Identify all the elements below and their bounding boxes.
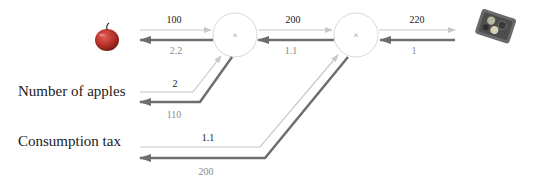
tray-icon [475, 8, 517, 44]
number-of-apples-label: Number of apples [18, 83, 125, 100]
backward-edge-tax [140, 57, 348, 158]
forward-edge-apple-count [140, 56, 221, 92]
backward-edge-apple-count [140, 57, 232, 102]
output-forward-value: 220 [410, 14, 425, 25]
apple-count-forward-value: 2 [173, 78, 178, 89]
multiply-node-2-op: × [353, 30, 358, 40]
apple-price-backward-value: 2.2 [170, 45, 183, 56]
mul1-backward-value: 1.1 [285, 45, 298, 56]
tax-backward-value: 200 [199, 166, 214, 177]
apple-count-backward-value: 110 [167, 109, 182, 120]
tax-forward-value: 1.1 [202, 132, 215, 143]
consumption-tax-label: Consumption tax [18, 133, 121, 150]
apple-price-forward-value: 100 [167, 14, 182, 25]
apple-icon [95, 23, 119, 51]
output-backward-value: 1 [412, 45, 417, 56]
multiply-node-1-op: × [232, 30, 237, 40]
mul1-forward-value: 200 [286, 14, 301, 25]
